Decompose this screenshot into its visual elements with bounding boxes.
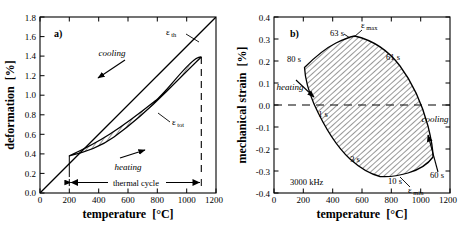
panel-b-xtick-3: 600 [355, 195, 369, 205]
panel-a-xtick-5: 1000 [178, 195, 197, 205]
panel-a-ytick-4: 0.8 [25, 110, 37, 120]
panel-b-xaxis-title: temperature[°C] [316, 207, 407, 221]
chart-panel-a: 0.0 0.2 0.4 0.6 0.8 1.0 1.2 1.4 1.6 1.8 [0, 0, 232, 240]
panel-a-ytick-8: 1.6 [25, 32, 37, 42]
chart-panel-b: 0.4 0.3 0.2 0.1 0.0 -0.1 -0.2 -0.3 -0.4 [232, 0, 464, 240]
panel-b-cooling-label: cooling [422, 114, 449, 124]
panel-b-xtick-5: 1000 [412, 195, 431, 205]
panel-a-ytick-6: 1.2 [25, 71, 36, 81]
panel-a-ytick-7: 1.4 [25, 51, 37, 61]
panel-b-ytick-2: -0.2 [256, 145, 270, 155]
panel-b-svg: 0.4 0.3 0.2 0.1 0.0 -0.1 -0.2 -0.3 -0.4 [232, 0, 465, 240]
panel-b-xtick-4: 800 [385, 195, 399, 205]
panel-b-xtick-0: 0 [272, 195, 277, 205]
panel-a-svg: 0.0 0.2 0.4 0.6 0.8 1.0 1.2 1.4 1.6 1.8 [0, 0, 232, 240]
panel-a-xtick-6: 1200 [205, 195, 224, 205]
panel-a-heating-label: heating [115, 162, 142, 172]
panel-b-ytick-1: -0.3 [256, 167, 271, 177]
panel-a-ytick-9: 1.8 [25, 13, 37, 23]
panel-a-cooling-label: cooling [99, 48, 126, 58]
panel-b-xtick-6: 1200 [439, 195, 458, 205]
panel-a-xtick-4: 800 [151, 195, 165, 205]
panel-a-ytick-2: 0.4 [25, 149, 37, 159]
panel-b-ytick-8: 0.4 [259, 13, 271, 23]
panel-b-label-63s: 63 s [330, 28, 344, 38]
panel-a-xtick-2: 400 [92, 195, 106, 205]
figure-root: 0.0 0.2 0.4 0.6 0.8 1.0 1.2 1.4 1.6 1.8 [0, 0, 465, 240]
panel-b-ytick-4: 0.0 [259, 101, 271, 111]
panel-b-label: b) [290, 28, 299, 40]
panel-b-label-61s: 61 s [386, 52, 400, 62]
panel-a-label: a) [54, 28, 62, 40]
panel-b-xtick-1: 200 [297, 195, 311, 205]
panel-a-xtick-0: 0 [38, 195, 43, 205]
panel-b-label-3s: 3 s [350, 154, 360, 164]
panel-b-ytick-5: 0.1 [259, 79, 270, 89]
panel-a-yaxis-title: deformation[%] [3, 60, 17, 149]
panel-b-yaxis-title: mechanical strain[%] [235, 47, 249, 164]
panel-a-thermal-cycle-label: thermal cycle [113, 178, 159, 188]
panel-a-ytick-1: 0.2 [25, 169, 36, 179]
panel-a-xtick-1: 200 [63, 195, 77, 205]
panel-a-ytick-0: 0.0 [25, 188, 37, 198]
panel-b-label-60s: 60 s [430, 170, 444, 180]
panel-a-xtick-3: 600 [121, 195, 135, 205]
panel-b-xtick-2: 400 [326, 195, 340, 205]
panel-b-ytick-0: -0.4 [256, 189, 271, 199]
panel-a-ytick-5: 1.0 [25, 90, 37, 100]
panel-b-ytick-6: 0.2 [259, 57, 270, 67]
panel-b-label-80s: 80 s [287, 54, 301, 64]
panel-b-ytick-3: -0.1 [256, 123, 270, 133]
panel-b-label-1s: 1 s [318, 109, 328, 119]
panel-b-frequency-label: 3000 kHz [290, 177, 324, 187]
panel-b-ytick-7: 0.3 [259, 35, 271, 45]
panel-a-xaxis-title: temperature[°C] [82, 207, 173, 221]
panel-a-ytick-3: 0.6 [25, 130, 37, 140]
